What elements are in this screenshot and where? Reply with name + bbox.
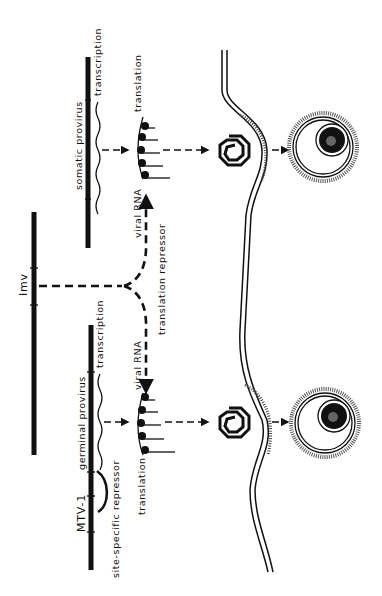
cell-membrane bbox=[222, 50, 273, 572]
germinal-provirus-label: germinal provirus bbox=[76, 376, 87, 470]
germinal-transcript-wave bbox=[98, 374, 102, 470]
somatic-provirus-label: somatic provirus bbox=[73, 101, 84, 190]
membrane-outer bbox=[222, 50, 268, 572]
translation-repressor-label: translation repressor bbox=[156, 224, 167, 335]
polysome-bottom: viral RNA translation bbox=[132, 341, 208, 515]
somatic-provirus-group: somatic provirus transcription bbox=[73, 28, 128, 248]
viral-rna-label-top: viral RNA bbox=[132, 189, 143, 238]
transcription-label-bottom: transcription bbox=[94, 300, 105, 368]
translation-label-bottom: translation bbox=[136, 457, 147, 515]
germinal-provirus-group: germinal provirus transcription MTV-1 si… bbox=[75, 300, 128, 578]
viral-rna-label-bottom: viral RNA bbox=[132, 341, 143, 390]
somatic-transcript-wave bbox=[96, 102, 100, 214]
spiral-core-icon bbox=[220, 136, 249, 165]
site-specific-repressor-arc bbox=[97, 471, 107, 512]
spiral-core-icon bbox=[220, 408, 249, 437]
site-specific-repressor-label: site-specific repressor bbox=[110, 460, 121, 578]
lmv-label: Imv bbox=[17, 273, 30, 296]
virion-particle-icon bbox=[291, 389, 359, 457]
polysome-top: translation viral RNA bbox=[132, 54, 208, 238]
mtv1-label: MTV-1 bbox=[75, 494, 88, 532]
provirus-expression-diagram: somatic provirus transcription translati… bbox=[0, 0, 382, 596]
transcription-label-top: transcription bbox=[92, 28, 103, 96]
ribosome-polysome-icon bbox=[137, 393, 175, 454]
translation-label-top: translation bbox=[132, 54, 143, 112]
virion-particle-icon bbox=[289, 113, 357, 181]
